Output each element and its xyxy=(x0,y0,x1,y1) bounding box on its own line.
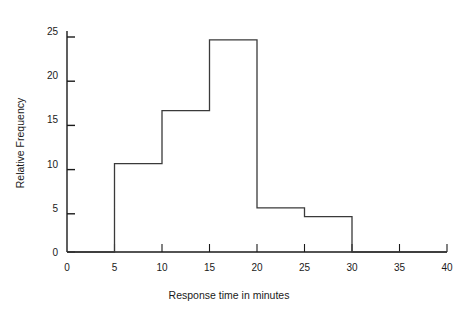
x-tick-label: 10 xyxy=(156,262,167,273)
y-tick-label: 25 xyxy=(30,26,58,37)
x-tick-label: 40 xyxy=(441,262,452,273)
y-tick-marks xyxy=(67,37,75,252)
y-tick-label: 15 xyxy=(30,114,58,125)
y-tick-label: 0 xyxy=(30,247,58,258)
histogram-series xyxy=(67,40,447,252)
x-tick-label: 5 xyxy=(112,262,118,273)
y-tick-label: 5 xyxy=(30,202,58,213)
x-axis-title: Response time in minutes xyxy=(0,289,458,301)
x-tick-label: 0 xyxy=(64,262,70,273)
histogram-outline xyxy=(67,40,447,252)
y-axis-title: Relative Frequency xyxy=(14,58,26,228)
x-tick-label: 20 xyxy=(251,262,262,273)
y-tick-label: 10 xyxy=(30,158,58,169)
x-tick-label: 30 xyxy=(346,262,357,273)
histogram-chart: 0510152025 0510152025303540 Response tim… xyxy=(0,0,458,316)
x-tick-marks xyxy=(115,244,448,252)
x-tick-label: 25 xyxy=(299,262,310,273)
y-tick-label: 20 xyxy=(30,70,58,81)
x-tick-label: 35 xyxy=(394,262,405,273)
x-tick-label: 15 xyxy=(204,262,215,273)
